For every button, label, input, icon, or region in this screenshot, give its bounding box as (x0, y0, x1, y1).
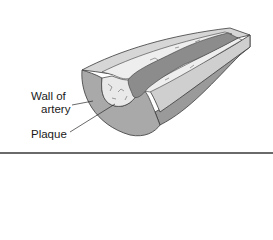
label-wall-of-artery-line1: Wall of (31, 90, 66, 102)
horizontal-rule (0, 152, 273, 154)
label-plaque: Plaque (31, 128, 67, 140)
label-wall-of-artery-line2: artery (41, 103, 70, 115)
